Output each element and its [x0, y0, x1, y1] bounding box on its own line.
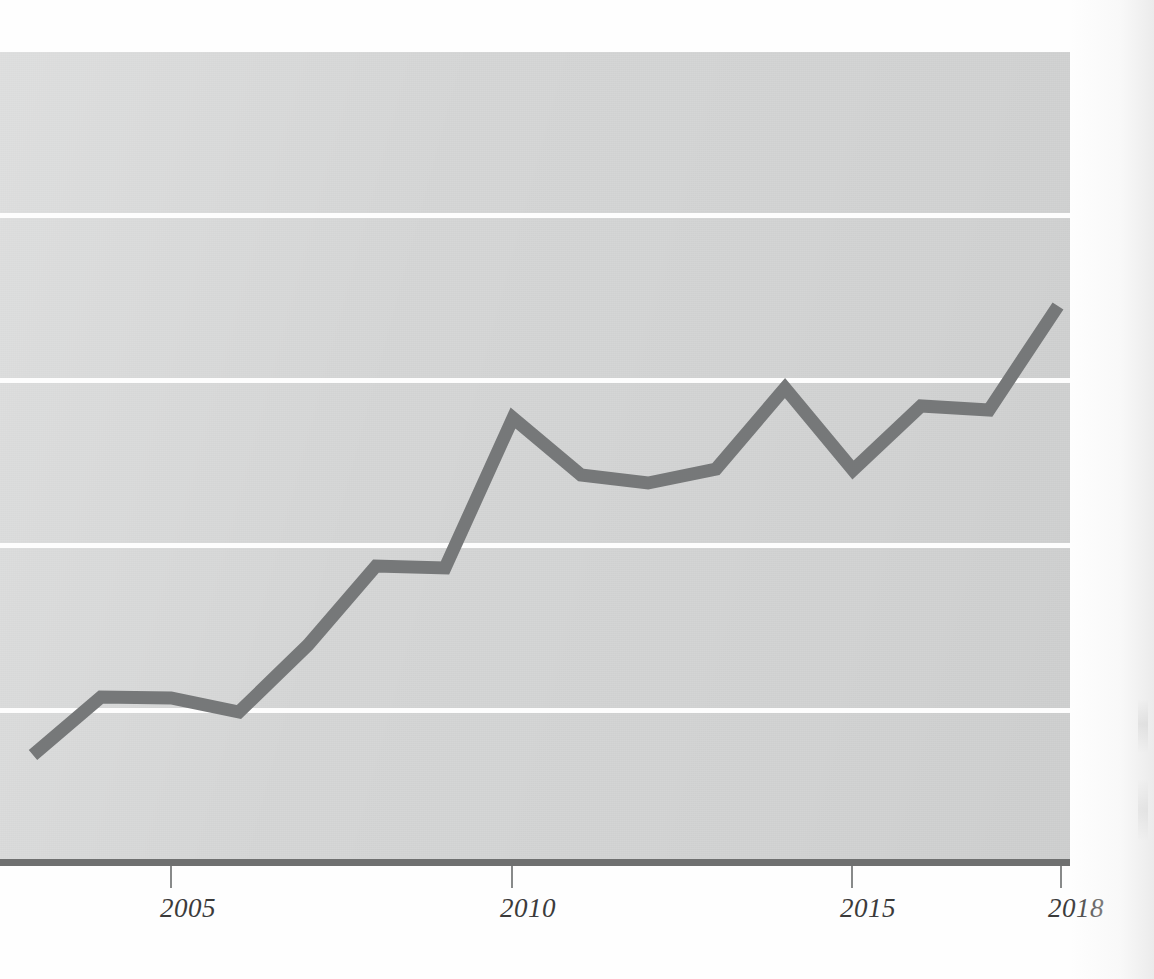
line-chart-figure: 2005 2010 2015 2018	[0, 0, 1154, 979]
series-line-chart	[0, 52, 1070, 865]
x-axis-tick	[511, 866, 513, 888]
series-polyline	[33, 306, 1058, 755]
x-axis-tick	[1060, 866, 1062, 888]
x-axis-tick	[170, 866, 172, 888]
scanned-page: 2005 2010 2015 2018	[0, 0, 1154, 979]
x-axis-tick-label-2015: 2015	[840, 893, 896, 924]
x-axis-line	[0, 859, 1070, 866]
x-axis-tick-label-2005: 2005	[160, 893, 216, 924]
x-axis-tick-label-2010: 2010	[500, 893, 556, 924]
x-axis-tick	[851, 866, 853, 888]
x-axis-tick-label-2018: 2018	[1048, 893, 1104, 924]
